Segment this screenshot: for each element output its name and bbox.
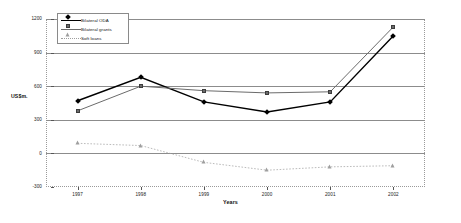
x-tick-label: 1997: [58, 192, 98, 198]
y-tick-mark: [51, 86, 54, 87]
gridline: [46, 86, 425, 87]
x-tick-label: 2002: [373, 192, 413, 198]
gridline: [46, 120, 425, 121]
legend-label: Bilateral ODA: [81, 18, 109, 23]
y-tick-label: 600: [12, 84, 42, 89]
y-axis-title: US$m.: [11, 93, 28, 99]
y-tick-mark: [51, 53, 54, 54]
data-point-marker: [201, 160, 205, 164]
y-tick-label: 300: [12, 117, 42, 122]
y-tick-mark: [51, 187, 54, 188]
x-tick-mark: [204, 187, 205, 190]
x-tick-mark: [141, 187, 142, 190]
data-point-marker: [328, 90, 332, 94]
y-tick-mark: [51, 120, 54, 121]
y-tick-mark: [51, 19, 54, 20]
legend-label: Soft loans: [81, 36, 102, 41]
x-tick-label: 2001: [310, 192, 350, 198]
x-tick-mark: [393, 187, 394, 190]
gridline: [46, 53, 425, 54]
x-tick-mark: [330, 187, 331, 190]
legend-swatch-square-icon: [61, 25, 81, 34]
y-axis-ticks: 12009006003000-300: [8, 0, 42, 223]
y-tick-label: 900: [12, 50, 42, 55]
data-point-marker: [75, 141, 79, 145]
gridline: [46, 153, 425, 154]
x-tick-mark: [78, 187, 79, 190]
legend-swatch-diamond-icon: [61, 16, 81, 25]
y-tick-mark: [51, 153, 54, 154]
legend-item-soft-loans: Soft loans: [61, 34, 128, 43]
legend-swatch-triangle-icon: [61, 34, 81, 43]
x-axis-title: Years: [0, 199, 461, 205]
line-chart: 12009006003000-300 US$m. 199719981999200…: [0, 0, 461, 223]
data-point-marker: [76, 109, 80, 113]
legend-label: Bilateral grants: [81, 27, 112, 32]
legend-item-bilateral-oda: Bilateral ODA: [61, 16, 128, 25]
y-tick-label: -300: [12, 184, 42, 189]
y-tick-label: 1200: [12, 16, 42, 21]
x-tick-label: 1999: [184, 192, 224, 198]
data-point-marker: [139, 84, 143, 88]
data-point-marker: [391, 163, 395, 167]
y-tick-label: 0: [12, 151, 42, 156]
data-point-marker: [265, 168, 269, 172]
legend: Bilateral ODA Bilateral grants Soft loan…: [57, 13, 129, 44]
legend-item-bilateral-grants: Bilateral grants: [61, 25, 128, 34]
data-point-marker: [138, 143, 142, 147]
plot-area: [46, 19, 425, 187]
data-point-marker: [391, 25, 395, 29]
x-tick-mark: [267, 187, 268, 190]
data-point-marker: [265, 91, 269, 95]
data-point-marker: [328, 164, 332, 168]
x-tick-label: 2000: [247, 192, 287, 198]
data-point-marker: [202, 89, 206, 93]
x-tick-label: 1998: [121, 192, 161, 198]
